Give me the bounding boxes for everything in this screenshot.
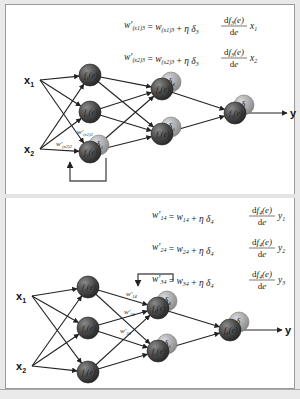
svg-text:de: de [258, 281, 267, 291]
node-function-label: f1(e) [84, 71, 98, 81]
input-label: x1 [24, 74, 34, 88]
node-function-label: f3(e) [82, 368, 96, 378]
svg-text:w'34 = w34 + η δ4: w'34 = w34 + η δ4 [152, 274, 213, 289]
svg-text:df3(e): df3(e) [224, 15, 244, 26]
svg-text:de: de [258, 217, 267, 227]
weight-label: w'34 [120, 327, 131, 336]
weight-update-equation: w'14 = w14 + η δ4df4(e)dey1 [152, 205, 285, 227]
connection-arrow [40, 149, 79, 151]
top-panel: f1(e)f2(e)δ3f3(e)δ4f4(e)δ5f5(e)δf6(e)x1x… [24, 15, 297, 181]
svg-text:de: de [258, 249, 267, 259]
svg-text:y3: y3 [277, 275, 285, 286]
svg-text:w'14 = w14 + η δ4: w'14 = w14 + η δ4 [152, 210, 213, 225]
node-function-label: f6(e) [224, 326, 238, 336]
node-function-label: f2(e) [82, 324, 96, 334]
connection-arrow [32, 366, 77, 371]
node-function-label: f5(e) [156, 130, 170, 140]
input-label: x1 [16, 290, 26, 304]
svg-text:y2: y2 [277, 243, 285, 254]
weight-label: w'24 [124, 308, 135, 317]
connection-arrow [40, 76, 79, 80]
svg-text:de: de [230, 27, 239, 37]
bottom-panel: f1(e)f2(e)f3(e)δ4f4(e)δ5f5(e)δf6(e)x1x2y… [16, 205, 292, 383]
svg-text:df3(e): df3(e) [224, 47, 244, 58]
input-label: x2 [16, 360, 26, 374]
node-function-label: f5(e) [152, 347, 166, 357]
svg-text:w'(x1)3 = w(x1)3 + η δ3: w'(x1)3 = w(x1)3 + η δ3 [124, 20, 199, 35]
svg-text:de: de [230, 59, 239, 69]
node-function-label: f3(e) [84, 148, 98, 158]
weight-update-equation: w'(x2)3 = w(x2)3 + η δ3df3(e)dex2 [124, 47, 257, 69]
node-function-label: f2(e) [84, 108, 98, 118]
svg-text:y1: y1 [277, 211, 285, 222]
svg-text:x2: x2 [249, 53, 257, 64]
output-label: y [290, 107, 297, 119]
connection-arrow [88, 287, 150, 344]
weight-label: w'(x1)3 [77, 128, 93, 137]
svg-text:df4(e): df4(e) [252, 269, 272, 280]
connection-arrow [32, 289, 77, 296]
connection-arrow [40, 80, 81, 106]
connection-arrow [32, 296, 78, 323]
svg-text:df4(e): df4(e) [252, 237, 272, 248]
node-function-label: f6(e) [229, 109, 243, 119]
node-function-label: f1(e) [82, 283, 96, 293]
output-label: y [285, 324, 292, 336]
weight-update-equation: w'34 = w34 + η δ4df4(e)dey3 [152, 269, 285, 291]
svg-text:w'24 = w24 + η δ4: w'24 = w24 + η δ4 [152, 242, 213, 257]
node-function-label: f4(e) [152, 304, 166, 314]
input-label: x2 [24, 143, 34, 157]
svg-text:df4(e): df4(e) [252, 205, 272, 216]
svg-text:w'(x2)3 = w(x2)3 + η δ3: w'(x2)3 = w(x2)3 + η δ3 [124, 52, 199, 67]
svg-text:x1: x1 [249, 21, 257, 32]
weight-update-equation: w'24 = w24 + η δ4df4(e)dey2 [152, 237, 285, 259]
weight-label: w'14 [126, 290, 137, 299]
weight-label: w'(x2)3 [56, 140, 72, 149]
weight-update-equation: w'(x1)3 = w(x1)3 + η δ3df3(e)dex1 [124, 15, 257, 37]
connection-arrow [90, 75, 153, 127]
node-function-label: f4(e) [156, 85, 170, 95]
